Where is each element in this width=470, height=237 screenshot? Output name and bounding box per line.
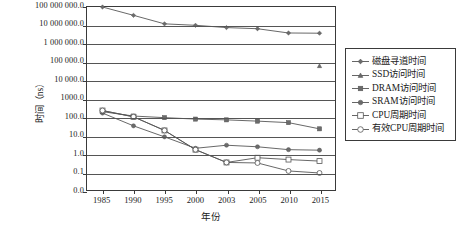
data-point bbox=[317, 159, 322, 164]
y-axis-tick bbox=[83, 174, 87, 175]
gridline bbox=[87, 100, 335, 101]
legend-label: DRAM访问时间 bbox=[370, 83, 436, 93]
data-point bbox=[317, 64, 321, 68]
legend: 磁盘寻道时间SSD访问时间DRAM访问时间SRAM访问时间CPU周期时间有效CP… bbox=[345, 48, 456, 141]
data-point bbox=[286, 31, 290, 35]
data-point bbox=[131, 13, 135, 17]
legend-label: 磁盘寻道时间 bbox=[370, 56, 426, 66]
legend-item-5[interactable]: CPU周期时间 bbox=[351, 108, 451, 122]
y-tick-label: 1 000 000.0 bbox=[43, 39, 84, 47]
data-point bbox=[317, 148, 321, 152]
data-point bbox=[286, 121, 290, 125]
series-1 bbox=[100, 5, 321, 36]
y-axis-tick bbox=[83, 26, 87, 27]
data-point bbox=[255, 119, 259, 123]
legend-label: SRAM访问时间 bbox=[370, 96, 435, 106]
data-point bbox=[131, 124, 135, 128]
data-point bbox=[286, 148, 290, 152]
x-tick-label: 2015 bbox=[300, 196, 340, 205]
data-point bbox=[317, 127, 321, 131]
y-axis-tick bbox=[83, 7, 87, 8]
gridline bbox=[87, 155, 335, 156]
y-tick-label: 1000.0 bbox=[61, 94, 84, 102]
y-axis-tick bbox=[83, 155, 87, 156]
x-axis-title: 年份 bbox=[86, 209, 336, 223]
data-point bbox=[193, 147, 198, 152]
y-axis-tick bbox=[83, 118, 87, 119]
gridline bbox=[87, 44, 335, 45]
gridline bbox=[87, 63, 335, 64]
diamond-marker-icon bbox=[351, 54, 370, 67]
gridline bbox=[87, 137, 335, 138]
gridline bbox=[87, 118, 335, 119]
data-point bbox=[100, 108, 105, 113]
y-axis-tick bbox=[83, 81, 87, 82]
legend-item-1[interactable]: 磁盘寻道时间 bbox=[351, 54, 451, 68]
data-point bbox=[162, 128, 167, 133]
gridline bbox=[87, 26, 335, 27]
y-tick-label: 100.0 bbox=[65, 113, 84, 121]
plot-area bbox=[86, 6, 336, 191]
data-point bbox=[255, 145, 259, 149]
data-point bbox=[317, 31, 321, 35]
y-tick-label: 100 000 000.0 bbox=[35, 2, 84, 10]
legend-label: SSD访问时间 bbox=[370, 69, 425, 79]
gridline bbox=[87, 81, 335, 82]
y-tick-label: 10 000 000.0 bbox=[39, 20, 84, 28]
y-axis-tick bbox=[83, 44, 87, 45]
gridline bbox=[87, 174, 335, 175]
legend-label: 有效CPU周期时间 bbox=[370, 123, 444, 133]
legend-item-3[interactable]: DRAM访问时间 bbox=[351, 81, 451, 95]
y-tick-label: 10.0 bbox=[69, 131, 84, 139]
series-layer bbox=[87, 7, 335, 190]
y-tick-label: 10 000.0 bbox=[54, 76, 84, 84]
data-point bbox=[100, 5, 104, 9]
series-line bbox=[103, 7, 320, 33]
square-marker-icon bbox=[351, 108, 370, 121]
legend-label: CPU周期时间 bbox=[370, 110, 426, 120]
y-tick-label: 0.1 bbox=[73, 168, 84, 176]
data-point bbox=[224, 160, 229, 165]
square-marker-icon bbox=[351, 81, 370, 94]
legend-item-6[interactable]: 有效CPU周期时间 bbox=[351, 122, 451, 136]
y-tick-label: 1.0 bbox=[73, 150, 84, 158]
y-tick-label: 0.0 bbox=[73, 187, 84, 195]
legend-item-4[interactable]: SRAM访问时间 bbox=[351, 95, 451, 109]
chart-figure: 100 000 000.010 000 000.01 000 000.0100 … bbox=[0, 0, 470, 237]
triangle-marker-icon bbox=[351, 68, 370, 81]
circle-marker-icon bbox=[351, 122, 370, 135]
data-point bbox=[286, 157, 291, 162]
y-axis-tick bbox=[83, 137, 87, 138]
legend-item-2[interactable]: SSD访问时间 bbox=[351, 68, 451, 82]
data-point bbox=[255, 27, 259, 31]
data-point bbox=[255, 160, 260, 165]
series-2 bbox=[317, 64, 321, 68]
y-axis-tick bbox=[83, 100, 87, 101]
circle-marker-icon bbox=[351, 95, 370, 108]
y-axis-tick bbox=[83, 63, 87, 64]
data-point bbox=[224, 143, 228, 147]
x-axis-tick-labels: 19851990199520002003200520102015 bbox=[86, 193, 336, 207]
y-tick-label: 100 000.0 bbox=[50, 57, 84, 65]
y-axis-title: 时间（ns） bbox=[35, 59, 45, 143]
